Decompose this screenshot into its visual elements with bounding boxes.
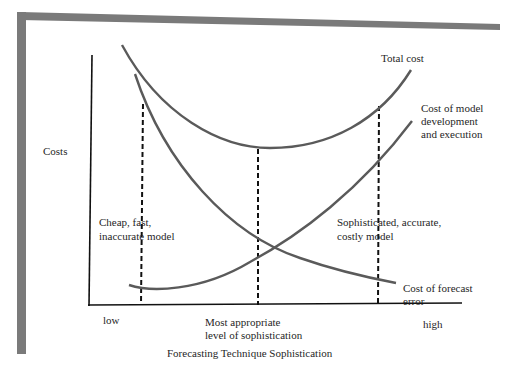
label-forecast-error-2: error	[403, 295, 424, 308]
label-costs: Costs	[43, 145, 67, 158]
frame-left-bar	[17, 12, 26, 354]
x-tick-low: low	[103, 314, 120, 327]
forecast-error-curve	[135, 74, 396, 283]
label-cheap-2: inaccurate model	[99, 230, 174, 243]
dashed-line-cheap	[141, 104, 143, 305]
label-total-cost: Total cost	[381, 52, 424, 65]
label-sophisticated-1: Sophisticated, accurate,	[337, 216, 441, 229]
label-appropriate-1: Most appropriate	[205, 316, 280, 329]
x-axis-title: Forecasting Technique Sophistication	[167, 347, 332, 360]
label-sophisticated-2: costly model	[337, 230, 394, 243]
x-tick-high: high	[423, 318, 443, 331]
model-cost-curve	[129, 121, 412, 289]
label-model-cost-1: Cost of model	[421, 102, 483, 115]
label-appropriate-2: level of sophistication	[205, 329, 302, 342]
label-model-cost-3: and execution	[421, 128, 482, 141]
label-forecast-error-1: Cost of forecast	[403, 282, 473, 295]
label-model-cost-2: development	[421, 115, 478, 128]
total-cost-curve	[122, 45, 411, 148]
label-cheap-1: Cheap, fast,	[99, 216, 151, 229]
dashed-line-sophisticated	[378, 106, 379, 304]
y-axis	[89, 55, 92, 306]
frame-top-bar	[20, 12, 500, 30]
